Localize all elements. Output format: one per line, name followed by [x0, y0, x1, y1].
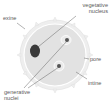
- label-vegetative-line2: nucleus: [72, 8, 108, 14]
- leader-exine: [17, 23, 25, 29]
- label-intine: intine: [88, 80, 101, 86]
- label-exine: exine: [3, 15, 16, 21]
- label-generative-nuclei: generative nuclei: [4, 89, 30, 101]
- label-pore: pore: [90, 56, 101, 62]
- pollen-grain-diagram: exine vegetative nucleus pore intine gen…: [0, 0, 110, 109]
- label-generative-line2: nuclei: [4, 95, 30, 101]
- label-vegetative-nucleus: vegetative nucleus: [72, 2, 108, 14]
- generative-nucleus-upper: [61, 36, 71, 45]
